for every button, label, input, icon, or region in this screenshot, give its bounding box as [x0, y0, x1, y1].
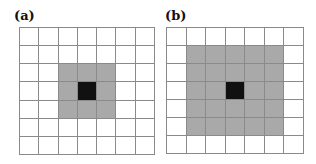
- panel-b-grid: [166, 27, 304, 154]
- grid-cell: [284, 136, 304, 154]
- grid-cell: [167, 28, 187, 46]
- grid-cell: [20, 137, 39, 155]
- grid-cell: [20, 101, 39, 119]
- grid-cell: [39, 28, 58, 46]
- grid-cell: [116, 119, 135, 137]
- grid-cell: [265, 28, 285, 46]
- neighborhood-cell: [245, 64, 265, 82]
- grid-cell: [20, 119, 39, 137]
- neighborhood-cell: [187, 64, 207, 82]
- grid-cell: [20, 82, 39, 100]
- center-cell: [78, 82, 97, 100]
- neighborhood-cell: [187, 82, 207, 100]
- neighborhood-cell: [206, 46, 226, 64]
- grid-cell: [78, 119, 97, 137]
- grid-cell: [59, 137, 78, 155]
- grid-cell: [245, 28, 265, 46]
- grid-cell: [59, 28, 78, 46]
- neighborhood-cell: [206, 82, 226, 100]
- neighborhood-cell: [59, 82, 78, 100]
- panel-a-label: (a): [14, 9, 35, 22]
- neighborhood-cell: [206, 64, 226, 82]
- neighborhood-cell: [78, 64, 97, 82]
- grid-cell: [167, 64, 187, 82]
- grid-cell: [39, 82, 58, 100]
- grid-cell: [116, 137, 135, 155]
- grid-cell: [206, 136, 226, 154]
- grid-cell: [167, 118, 187, 136]
- grid-cell: [167, 46, 187, 64]
- grid-cell: [20, 46, 39, 64]
- neighborhood-cell: [97, 82, 116, 100]
- neighborhood-cell: [265, 118, 285, 136]
- grid-cell: [136, 46, 155, 64]
- grid-cell: [284, 28, 304, 46]
- grid-cell: [245, 136, 265, 154]
- grid-cell: [39, 119, 58, 137]
- neighborhood-cell: [245, 118, 265, 136]
- grid-cell: [167, 136, 187, 154]
- grid-cell: [59, 119, 78, 137]
- grid-cell: [97, 119, 116, 137]
- grid-cell: [284, 82, 304, 100]
- grid-cell: [136, 119, 155, 137]
- panel-b-label: (b): [165, 9, 186, 22]
- grid-cell: [206, 28, 226, 46]
- neighborhood-cell: [245, 100, 265, 118]
- grid-cell: [265, 136, 285, 154]
- neighborhood-cell: [187, 100, 207, 118]
- neighborhood-cell: [59, 101, 78, 119]
- grid-cell: [39, 137, 58, 155]
- neighborhood-cell: [245, 46, 265, 64]
- neighborhood-cell: [226, 46, 246, 64]
- grid-cell: [39, 64, 58, 82]
- grid-cell: [39, 101, 58, 119]
- grid-cell: [116, 82, 135, 100]
- grid-cell: [226, 28, 246, 46]
- neighborhood-cell: [97, 64, 116, 82]
- grid-cell: [20, 28, 39, 46]
- grid-cell: [284, 118, 304, 136]
- grid-cell: [78, 137, 97, 155]
- neighborhood-cell: [206, 118, 226, 136]
- neighborhood-cell: [187, 46, 207, 64]
- grid-cell: [167, 100, 187, 118]
- neighborhood-cell: [226, 100, 246, 118]
- grid-cell: [136, 64, 155, 82]
- grid-cell: [226, 136, 246, 154]
- grid-cell: [116, 28, 135, 46]
- neighborhood-cell: [59, 64, 78, 82]
- grid-cell: [59, 46, 78, 64]
- neighborhood-cell: [265, 46, 285, 64]
- grid-cell: [284, 46, 304, 64]
- grid-cell: [78, 28, 97, 46]
- grid-cell: [136, 101, 155, 119]
- panel-a-grid: [19, 27, 155, 155]
- neighborhood-cell: [265, 82, 285, 100]
- grid-cell: [187, 136, 207, 154]
- neighborhood-cell: [226, 118, 246, 136]
- neighborhood-cell: [265, 100, 285, 118]
- grid-cell: [116, 64, 135, 82]
- neighborhood-cell: [97, 101, 116, 119]
- neighborhood-cell: [78, 101, 97, 119]
- grid-cell: [187, 28, 207, 46]
- grid-cell: [20, 64, 39, 82]
- grid-cell: [116, 46, 135, 64]
- grid-cell: [284, 100, 304, 118]
- grid-cell: [167, 82, 187, 100]
- grid-cell: [97, 46, 116, 64]
- grid-cell: [97, 137, 116, 155]
- neighborhood-cell: [206, 100, 226, 118]
- grid-cell: [136, 28, 155, 46]
- grid-cell: [136, 137, 155, 155]
- neighborhood-cell: [265, 64, 285, 82]
- grid-cell: [284, 64, 304, 82]
- neighborhood-cell: [226, 64, 246, 82]
- grid-cell: [78, 46, 97, 64]
- center-cell: [226, 82, 246, 100]
- neighborhood-cell: [245, 82, 265, 100]
- grid-cell: [136, 82, 155, 100]
- grid-cell: [116, 101, 135, 119]
- neighborhood-cell: [187, 118, 207, 136]
